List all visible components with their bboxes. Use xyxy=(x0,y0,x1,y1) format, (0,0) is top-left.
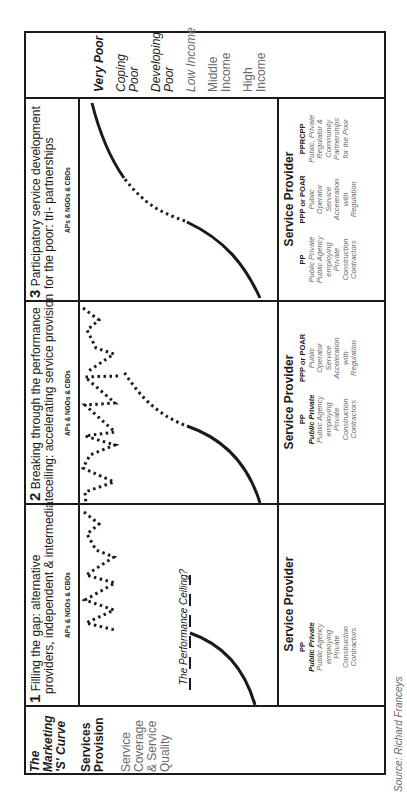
panel-3-dotted-curve xyxy=(124,178,185,221)
provider-line: Contractors xyxy=(350,395,359,445)
legend-coverage-quality: Service Coverage & Service Quality xyxy=(120,710,172,772)
legend-row: The Marketing 'S' Curve Services Provisi… xyxy=(29,708,172,772)
panel-2-provider-heading: Service Provider xyxy=(283,302,296,502)
panel-1-zigzag-dots xyxy=(84,512,115,630)
panel-2-zigzag-dots xyxy=(83,376,118,505)
legend-services-provision: Services Provision xyxy=(80,712,106,772)
provider-line: Regulation xyxy=(350,334,359,382)
panel-2-solid-curve xyxy=(187,426,260,503)
performance-ceiling-label: The Performance Ceiling? xyxy=(178,569,189,685)
provider-line: Contractors xyxy=(350,622,359,672)
provider-line: Contractors xyxy=(350,236,359,283)
panel-3-provider-block: Service Provider PP Public Private Publi… xyxy=(283,99,359,299)
panel-3-lower-solid-curve xyxy=(187,222,260,298)
provider-line: Regulation xyxy=(350,175,359,223)
provider-line: for the Poor xyxy=(342,115,351,163)
panel-1-solid-curve xyxy=(190,633,255,705)
panel-3-provider-pprcpp: PPRCPP Public, Private Regulator & Commu… xyxy=(299,115,350,163)
panel-2-top-dots xyxy=(83,308,114,372)
panel-1-provider-block: Service Provider PP Public Private Publi… xyxy=(283,504,359,704)
panel-2-provider-pp: PP Public Private Public Agency employin… xyxy=(299,395,359,445)
panel-2-provider-ppp: PPP or POAR Public Operator Service Acce… xyxy=(299,334,359,382)
panel-3-provider-ppp: PPP or POAR Public Operator Service Acce… xyxy=(299,175,359,223)
panel-3-provider-pp: PP Public Private Public Agency employin… xyxy=(299,236,359,283)
panel-1-provider-pp: PP Public Private Public Agency employin… xyxy=(299,622,359,672)
legend-title: The Marketing 'S' Curve xyxy=(29,708,68,772)
panel-1-provider-heading: Service Provider xyxy=(283,504,296,704)
panel-2-provider-block: Service Provider PP Public Private Publi… xyxy=(283,302,359,502)
source-caption: Source: Richard Franceys xyxy=(393,676,404,792)
panel-2-dotted-curve xyxy=(124,372,184,425)
panel-3-provider-heading: Service Provider xyxy=(283,99,296,299)
panel-3-upper-solid-curve xyxy=(92,103,124,178)
